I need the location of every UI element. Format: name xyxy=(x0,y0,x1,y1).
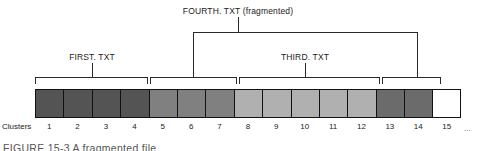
cluster-block xyxy=(120,89,148,118)
cluster-number: 12 xyxy=(347,122,375,133)
cluster-number: 14 xyxy=(404,122,432,133)
bracket-first-txt xyxy=(35,77,148,84)
file-label-third: THIRD. TXT xyxy=(281,52,329,62)
connector-stem-first xyxy=(92,63,93,77)
figure-caption: FIGURE 15-3 A fragmented file xyxy=(3,142,156,151)
fragmented-file-diagram: FOURTH. TXT (fragmented) FIRST. TXT THIR… xyxy=(0,0,477,151)
cluster-number: 9 xyxy=(262,122,290,133)
clusters-axis-label: Clusters xyxy=(2,122,31,131)
file-label-first: FIRST. TXT xyxy=(69,52,115,62)
cluster-number: 15 xyxy=(432,122,460,133)
cluster-number: 6 xyxy=(177,122,205,133)
cluster-block xyxy=(347,89,375,118)
cluster-block xyxy=(291,89,319,118)
cluster-block xyxy=(376,89,404,118)
cluster-number: 8 xyxy=(234,122,262,133)
cluster-block xyxy=(234,89,262,118)
cluster-ellipsis: ... xyxy=(464,124,471,133)
cluster-block xyxy=(35,89,63,118)
cluster-number: 3 xyxy=(92,122,120,133)
cluster-number: 2 xyxy=(63,122,91,133)
file-label-fourth: FOURTH. TXT (fragmented) xyxy=(183,6,293,16)
cluster-block xyxy=(262,89,290,118)
cluster-row xyxy=(35,89,461,118)
connector-stem-third xyxy=(305,63,306,77)
cluster-block xyxy=(404,89,432,118)
cluster-block xyxy=(432,89,460,118)
cluster-block xyxy=(205,89,233,118)
cluster-block xyxy=(149,89,177,118)
cluster-number: 11 xyxy=(319,122,347,133)
bracket-fourth-txt-fragment-2 xyxy=(382,77,441,84)
cluster-number: 1 xyxy=(35,122,63,133)
cluster-number: 10 xyxy=(291,122,319,133)
cluster-block xyxy=(63,89,91,118)
bracket-third-txt xyxy=(239,77,380,84)
cluster-number: 4 xyxy=(120,122,148,133)
cluster-number: 13 xyxy=(376,122,404,133)
bracket-fourth-txt-fragment-1 xyxy=(150,77,237,84)
cluster-number: 7 xyxy=(205,122,233,133)
cluster-number: 5 xyxy=(149,122,177,133)
connector-stem-fourth xyxy=(238,17,239,32)
cluster-block xyxy=(177,89,205,118)
cluster-number-row: 123456789101112131415 xyxy=(35,122,461,133)
cluster-block xyxy=(319,89,347,118)
cluster-block xyxy=(92,89,120,118)
